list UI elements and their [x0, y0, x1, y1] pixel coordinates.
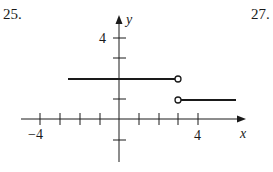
x-axis-arrow-icon [237, 116, 246, 123]
piecewise-graph: 4 y −4 4 x [0, 0, 273, 172]
x-axis-label: x [239, 126, 247, 141]
y-axis-arrow-icon [116, 15, 123, 24]
x-tick-label-4: 4 [194, 128, 201, 143]
open-endpoint-icon [175, 76, 181, 82]
y-tick-label-4: 4 [99, 31, 106, 46]
open-endpoint-icon [175, 97, 181, 103]
y-axis-label: y [124, 12, 133, 27]
x-tick-label-neg4: −4 [28, 127, 43, 142]
